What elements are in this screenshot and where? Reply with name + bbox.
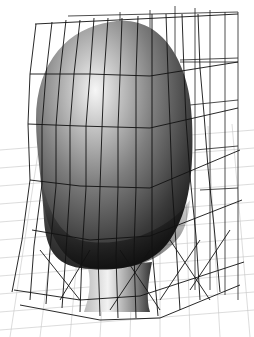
render-canvas [0, 0, 254, 337]
head-lattice-render [0, 0, 254, 337]
head-model [36, 21, 192, 270]
